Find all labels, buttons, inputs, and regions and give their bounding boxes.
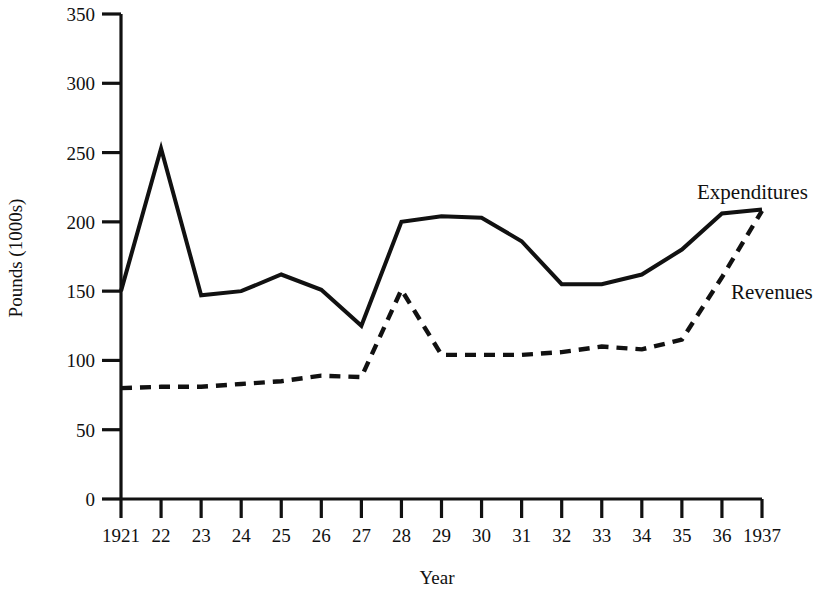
x-axis-tick-label: 36	[712, 525, 731, 546]
chart-container: 050100150200250300350 192122232425262728…	[0, 0, 813, 592]
y-axis-tick-label: 150	[67, 281, 96, 302]
y-axis-title: Pounds (1000s)	[5, 199, 27, 318]
series-label-expenditures: Expenditures	[697, 180, 808, 204]
x-axis-title: Year	[419, 567, 455, 588]
x-axis-tick-label: 23	[192, 525, 211, 546]
x-axis-tick-label: 31	[512, 525, 531, 546]
x-axis-tick-label: 22	[152, 525, 171, 546]
x-axis-tick-label: 33	[592, 525, 611, 546]
y-axis-tick-group	[102, 14, 121, 499]
line-chart: 050100150200250300350 192122232425262728…	[0, 0, 813, 592]
y-axis-tick-label: 350	[67, 4, 96, 25]
x-axis-tick-group	[121, 499, 762, 518]
series-label-revenues: Revenues	[731, 280, 813, 304]
y-axis-tick-label: 100	[67, 350, 96, 371]
x-axis-tick-label: 34	[632, 525, 652, 546]
series-line-expenditures	[121, 148, 762, 325]
x-axis-tick-label: 32	[552, 525, 571, 546]
x-axis-tick-labels: 19212223242526272829303132333435361937	[102, 525, 781, 546]
y-axis-tick-labels: 050100150200250300350	[67, 4, 96, 510]
x-axis-tick-label: 1937	[743, 525, 781, 546]
y-axis-tick-label: 250	[67, 143, 96, 164]
x-axis-tick-label: 26	[312, 525, 331, 546]
x-axis-tick-label: 29	[432, 525, 451, 546]
x-axis-tick-label: 28	[392, 525, 411, 546]
series-line-revenues	[121, 211, 762, 388]
x-axis-tick-label: 1921	[102, 525, 140, 546]
x-axis-tick-label: 24	[232, 525, 252, 546]
x-axis-tick-label: 30	[472, 525, 491, 546]
x-axis-tick-label: 25	[272, 525, 291, 546]
x-axis-tick-label: 35	[672, 525, 691, 546]
y-axis-tick-label: 200	[67, 212, 96, 233]
x-axis-tick-label: 27	[352, 525, 371, 546]
y-axis-tick-label: 50	[76, 420, 95, 441]
y-axis-tick-label: 300	[67, 73, 96, 94]
y-axis-tick-label: 0	[86, 489, 96, 510]
